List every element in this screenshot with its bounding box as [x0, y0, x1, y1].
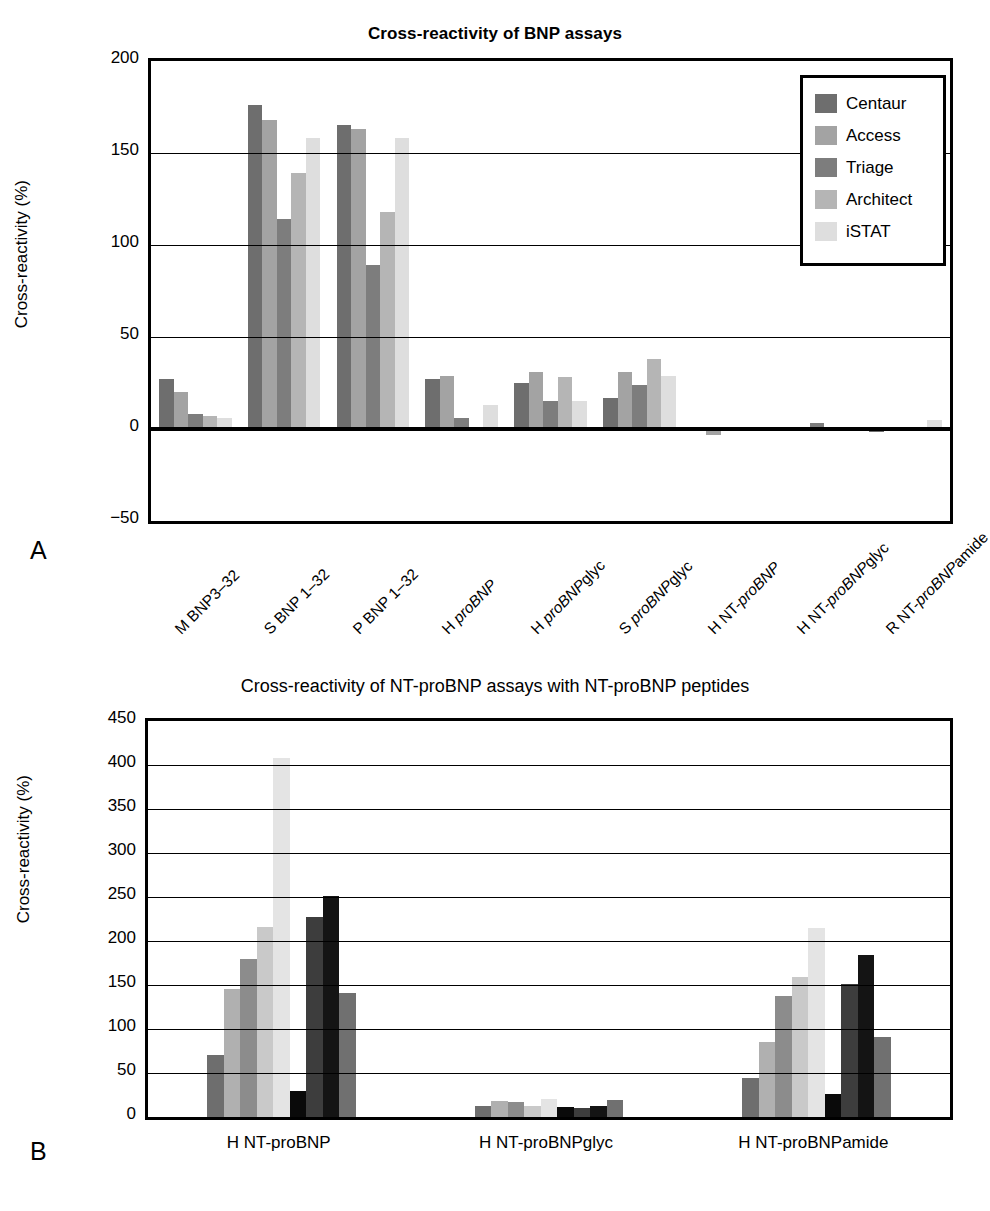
- bar: [541, 1099, 558, 1117]
- panel-a-letter: A: [30, 536, 47, 565]
- legend-swatch: [815, 222, 837, 241]
- y-tick-label: 100: [108, 1016, 136, 1036]
- bar-group: [159, 61, 232, 521]
- panel-b-letter: B: [30, 1137, 47, 1166]
- bar: [483, 405, 498, 429]
- bar-group: [603, 61, 676, 521]
- y-tick-label: 400: [108, 752, 136, 772]
- legend-swatch: [815, 94, 837, 113]
- bar: [257, 927, 274, 1117]
- y-tick-label: 300: [108, 840, 136, 860]
- legend-label: Access: [846, 127, 901, 144]
- bar-group: [692, 61, 765, 521]
- bar: [647, 359, 662, 429]
- legend-item: Architect: [815, 183, 912, 215]
- bar: [291, 173, 306, 429]
- bar: [306, 138, 321, 429]
- y-tick-label: 50: [117, 1060, 136, 1080]
- x-axis-label: S proBNPglyc: [616, 557, 697, 638]
- panel-a-legend: CentaurAccessTriageArchitectiSTAT: [800, 75, 946, 266]
- bar-group: [425, 61, 498, 521]
- bar: [524, 1106, 541, 1117]
- bar: [262, 120, 277, 429]
- bar: [543, 401, 558, 429]
- bar: [607, 1100, 624, 1117]
- bar: [491, 1101, 508, 1117]
- bar: [529, 372, 544, 429]
- bar: [339, 993, 356, 1117]
- legend-label: iSTAT: [846, 223, 891, 240]
- bar: [425, 379, 440, 429]
- bar: [224, 989, 241, 1117]
- panel-a-title: Cross-reactivity of BNP assays: [0, 24, 990, 44]
- y-tick-label: 100: [111, 232, 139, 252]
- bar-group: [742, 721, 891, 1117]
- y-tick-label: 50: [120, 324, 139, 344]
- y-tick-label: 150: [111, 140, 139, 160]
- bar-group: [248, 61, 321, 521]
- bar: [661, 376, 676, 429]
- x-axis-label: H NT-proBNP: [227, 1133, 331, 1153]
- legend-swatch: [815, 190, 837, 209]
- x-axis-label: H proBNP: [438, 576, 500, 638]
- panel-a-y-ticks: −50050100150200: [95, 58, 139, 524]
- bar: [759, 1042, 776, 1117]
- bar: [277, 219, 292, 429]
- bar: [775, 996, 792, 1117]
- bar: [632, 385, 647, 429]
- y-tick-label: 200: [111, 48, 139, 68]
- legend-label: Triage: [846, 159, 894, 176]
- bar: [792, 977, 809, 1117]
- gridline: [151, 337, 950, 338]
- x-axis-label: S BNP 1–32: [260, 565, 333, 638]
- bar: [874, 1037, 891, 1117]
- x-axis-label: H NT-proBNPglyc: [793, 539, 892, 638]
- bar: [618, 372, 633, 429]
- bar: [395, 138, 410, 429]
- bar-group: [475, 721, 624, 1117]
- bar-group: [337, 61, 410, 521]
- bar: [174, 392, 189, 429]
- x-axis-label: H NT-proBNP: [704, 558, 784, 638]
- legend-swatch: [815, 126, 837, 145]
- bar: [858, 955, 875, 1117]
- bar: [603, 398, 618, 429]
- panel-b-y-ticks: 050100150200250300350400450: [92, 718, 136, 1120]
- bar: [557, 1107, 574, 1117]
- x-axis-label: H NT-proBNPglyc: [479, 1133, 613, 1153]
- bar: [590, 1106, 607, 1117]
- panel-b-title: Cross-reactivity of NT-proBNP assays wit…: [0, 676, 990, 697]
- bar: [290, 1091, 307, 1117]
- bar: [508, 1102, 525, 1117]
- legend-label: Architect: [846, 191, 912, 208]
- bar-group: [514, 61, 587, 521]
- panel-b: Cross-reactivity of NT-proBNP assays wit…: [0, 655, 990, 1211]
- bar: [574, 1108, 591, 1117]
- bar: [323, 896, 340, 1117]
- x-axis-label: H NT-proBNPamide: [738, 1133, 888, 1153]
- panel-b-bars: [148, 721, 950, 1117]
- y-tick-label: 150: [108, 972, 136, 992]
- gridline: [148, 1029, 950, 1030]
- legend-label: Centaur: [846, 95, 906, 112]
- bar: [808, 928, 825, 1117]
- bar: [514, 383, 529, 429]
- bar: [558, 377, 573, 429]
- y-tick-label: 200: [108, 928, 136, 948]
- bar: [742, 1078, 759, 1117]
- legend-item: Triage: [815, 151, 912, 183]
- bar: [366, 265, 381, 429]
- bar: [337, 125, 352, 429]
- legend-item: Access: [815, 119, 912, 151]
- bar: [440, 376, 455, 429]
- gridline: [148, 941, 950, 942]
- bar: [841, 984, 858, 1117]
- gridline: [148, 809, 950, 810]
- legend-item: iSTAT: [815, 215, 912, 247]
- panel-b-plot-area: [145, 718, 953, 1120]
- y-tick-label: 350: [108, 796, 136, 816]
- x-axis-label: R NT-proBNPamide: [882, 528, 990, 638]
- bar: [306, 917, 323, 1117]
- panel-b-y-axis-label: Cross-reactivity (%): [14, 775, 34, 923]
- zero-line: [151, 427, 950, 431]
